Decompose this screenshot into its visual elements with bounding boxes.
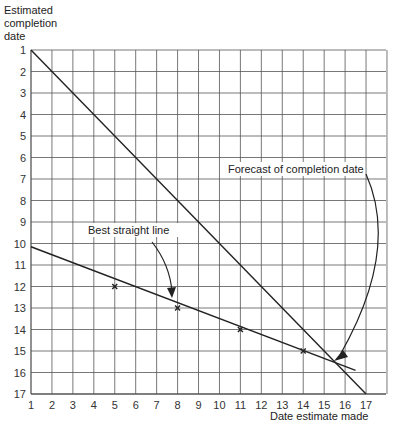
arrow-forecast: [340, 174, 378, 355]
y-tick: 3: [20, 87, 26, 99]
y-tick: 5: [20, 130, 26, 142]
y-tick: 10: [14, 238, 26, 250]
y-tick-labels: 1234567891011121314151617: [14, 44, 26, 400]
arrow-best-line: [152, 242, 172, 292]
y-tick: 11: [15, 259, 26, 271]
grid: [31, 50, 387, 394]
y-tick: 1: [20, 44, 26, 56]
y-tick: 8: [20, 195, 26, 207]
x-tick: 7: [154, 399, 160, 411]
y-tick: 4: [20, 109, 26, 121]
chart-plot: 1234567891011121314151617 12345678910111…: [0, 0, 396, 434]
y-tick: 7: [20, 173, 26, 185]
x-tick: 2: [49, 399, 55, 411]
x-tick: 8: [175, 399, 181, 411]
x-tick: 14: [297, 399, 309, 411]
y-tick: 16: [14, 367, 26, 379]
y-tick: 15: [14, 345, 26, 357]
x-tick: 10: [213, 399, 225, 411]
arrowhead: [167, 287, 176, 298]
x-tick: 13: [276, 399, 288, 411]
annotation-best-line: Best straight line: [88, 224, 169, 236]
y-tick: 17: [14, 388, 26, 400]
x-tick: 9: [195, 399, 201, 411]
annotations: Best straight lineForecast of completion…: [86, 162, 378, 361]
x-tick: 15: [318, 399, 330, 411]
y-tick: 9: [20, 216, 26, 228]
x-tick: 1: [28, 399, 34, 411]
x-tick: 4: [91, 399, 97, 411]
x-tick: 17: [360, 399, 372, 411]
annotation-forecast: Forecast of completion date: [228, 163, 364, 175]
data-markers: [112, 284, 305, 354]
x-tick-labels: 1234567891011121314151617: [28, 399, 372, 411]
arrowhead: [334, 350, 348, 361]
y-tick: 14: [14, 324, 26, 336]
y-tick: 13: [14, 302, 26, 314]
y-tick: 6: [20, 152, 26, 164]
x-tick: 11: [235, 399, 246, 411]
y-tick: 2: [20, 66, 26, 78]
y-tick: 12: [14, 281, 26, 293]
x-tick: 3: [70, 399, 76, 411]
x-tick: 6: [133, 399, 139, 411]
x-tick: 5: [112, 399, 118, 411]
x-tick: 12: [255, 399, 267, 411]
x-tick: 16: [339, 399, 351, 411]
